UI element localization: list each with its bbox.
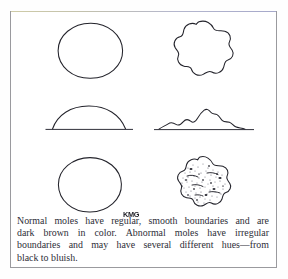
panel-normal-mole-top-view xyxy=(35,18,145,84)
caption-line-4: black to bluish. xyxy=(17,252,269,264)
figure-caption: Normalmoleshaveregular,smoothboundariesa… xyxy=(15,215,271,264)
caption-line-3: boundariesandmayhaveseveraldifferenthues… xyxy=(17,239,269,251)
panel-abnormal-mole-profile-view xyxy=(149,96,261,140)
illustration-plate xyxy=(11,12,276,212)
abnormal-mole-bumpy-profile-icon xyxy=(150,98,260,138)
caption-line-2: darkbrownincolor.Abnormalmoleshaveirregu… xyxy=(17,227,269,239)
scanned-page: KMG Normalmoleshaveregular,smoothboundar… xyxy=(0,0,288,279)
panel-abnormal-mole-top-view xyxy=(149,16,261,86)
panel-normal-mole-color-view xyxy=(35,154,145,216)
panel-normal-mole-profile-view xyxy=(35,96,145,140)
figure-frame: KMG Normalmoleshaveregular,smoothboundar… xyxy=(10,11,277,268)
normal-mole-dome-profile-icon xyxy=(36,98,144,138)
normal-mole-circle-icon xyxy=(38,20,142,82)
panel-abnormal-mole-color-view xyxy=(149,152,261,218)
normal-mole-uniform-color-icon xyxy=(38,155,142,215)
abnormal-mole-blob-icon xyxy=(151,18,259,84)
caption-line-1: Normalmoleshaveregular,smoothboundariesa… xyxy=(17,215,269,227)
abnormal-mole-mottled-color-icon xyxy=(151,154,259,216)
